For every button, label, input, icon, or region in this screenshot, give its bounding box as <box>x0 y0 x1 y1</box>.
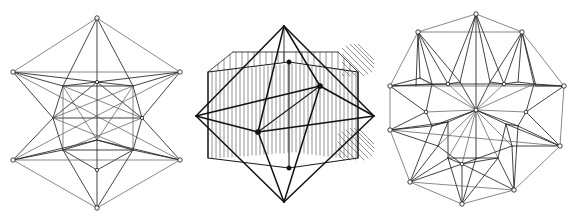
vertex-node <box>460 202 464 206</box>
vertex-node <box>287 60 291 64</box>
polyhedra-plate <box>0 0 568 218</box>
figure-cube-octahedron-compound <box>188 0 384 218</box>
vertex-node <box>562 84 566 88</box>
vertex-node <box>95 16 99 20</box>
fig-right-canvas <box>386 0 568 218</box>
vertex-node <box>474 108 478 112</box>
vertex-node <box>512 188 516 192</box>
vertex-node <box>255 129 260 134</box>
figure-great-stellated-icosahedron <box>386 0 568 218</box>
vertex-node <box>416 30 420 34</box>
fig-left-canvas <box>0 0 190 218</box>
vertex-node <box>11 70 15 74</box>
vertex-node <box>178 158 182 162</box>
fig-left-star-outline <box>13 18 180 208</box>
vertex-node <box>95 80 98 83</box>
vertex-node <box>524 110 528 114</box>
fig-right-inner-core <box>420 78 534 164</box>
fig-left-long-struts <box>13 18 180 208</box>
vertex-node <box>317 83 322 88</box>
vertex-node <box>388 128 392 132</box>
fig-left-vertex-markers <box>11 16 182 210</box>
vertex-node <box>520 30 524 34</box>
fig-right-vertex-markers <box>388 12 566 206</box>
vertex-node <box>95 168 98 171</box>
vertex-node <box>178 70 182 74</box>
vertex-node <box>140 116 143 119</box>
vertex-node <box>388 84 392 88</box>
vertex-node <box>460 162 464 166</box>
vertex-node <box>408 180 412 184</box>
vertex-node <box>95 206 99 210</box>
vertex-node <box>558 144 562 148</box>
vertex-node <box>474 12 478 16</box>
vertex-node <box>502 82 506 86</box>
fig-middle-canvas <box>188 0 384 218</box>
vertex-node <box>446 82 450 86</box>
vertex-node <box>11 158 15 162</box>
vertex-node <box>424 110 428 114</box>
figure-small-stellated-dodecahedron <box>0 0 190 218</box>
vertex-node <box>287 166 291 170</box>
